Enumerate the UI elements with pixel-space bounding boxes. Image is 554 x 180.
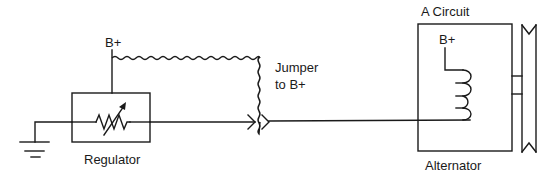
field-coil-icon [445, 48, 471, 120]
alternator-label: Alternator [425, 158, 482, 173]
circuit-diagram: B+ Regulator Jumper to B+ A Circuit B+ [0, 0, 554, 180]
regulator [72, 50, 150, 142]
shaft [512, 76, 522, 94]
circuit-type-label: A Circuit [421, 4, 470, 19]
regulator-bplus-label: B+ [105, 35, 121, 50]
pulley-icon [522, 25, 536, 152]
jumper-label-line2: to B+ [275, 77, 306, 92]
regulator-label: Regulator [84, 152, 141, 167]
regulator-box [72, 93, 150, 142]
alternator-box [418, 24, 512, 151]
alternator-bplus-label: B+ [439, 32, 455, 47]
jumper-label-line1: Jumper [275, 60, 319, 75]
field-wire-right [269, 120, 470, 121]
ground-symbol [20, 122, 72, 157]
alternator [418, 24, 512, 151]
